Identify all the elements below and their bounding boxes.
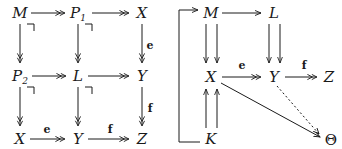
diagram-vector-layer — [0, 0, 342, 149]
arrow-label-f-right-lower: f — [148, 103, 153, 114]
right-diagram-group — [179, 10, 320, 142]
arrow-label-f-right-diagram: f — [302, 60, 307, 71]
edge-X-to-Theta-solid — [221, 83, 320, 137]
node-label-P1: P1 — [70, 6, 86, 21]
node-label-X-topright: X — [137, 6, 148, 21]
pullback-marker-1 — [27, 24, 34, 31]
arrow-label-f-bottom-right: f — [108, 124, 113, 135]
node-label-theta: Θ — [325, 133, 338, 148]
node-label-Y-right: Y — [269, 70, 279, 85]
pullback-marker-3 — [27, 87, 34, 94]
arrow-label-e-bottom-left: e — [44, 124, 51, 135]
pullback-marker-4 — [85, 87, 92, 94]
node-label-Z-right: Z — [324, 70, 335, 85]
arrow-label-e-right-upper: e — [147, 40, 154, 51]
node-label-Z-bottomright: Z — [137, 132, 148, 147]
pullback-marker-2 — [85, 24, 92, 31]
node-label-L-left: L — [73, 69, 83, 84]
node-label-M-left: M — [12, 6, 28, 21]
edge-L-to-Y-parallel-pair — [269, 24, 280, 63]
edge-K-to-X-parallel-pair — [206, 89, 217, 128]
diagram-canvas: M P1 X P2 L Y X Y Z e f e f M — [0, 0, 342, 149]
arrow-label-e-right-diagram: e — [239, 60, 246, 71]
node-label-Y-bottom: Y — [73, 132, 83, 147]
edge-Y-to-Theta-dotted — [277, 86, 319, 134]
node-label-X-right: X — [206, 70, 217, 85]
node-label-X-bottomleft: X — [15, 132, 26, 147]
edge-M-to-X-parallel-pair — [206, 24, 217, 63]
node-label-L-right: L — [269, 6, 279, 21]
node-label-M-right: M — [203, 6, 219, 21]
node-label-P2: P2 — [12, 69, 28, 84]
node-label-Y-midright: Y — [137, 69, 147, 84]
edge-K-to-M-wraparound — [179, 10, 200, 142]
node-label-K: K — [205, 132, 216, 147]
